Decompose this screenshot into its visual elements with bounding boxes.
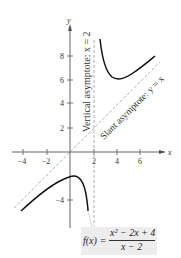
y-tick-label: 8: [60, 52, 64, 61]
x-tick-labels: −4 −2 2 4 6: [18, 157, 142, 166]
x-tick-label: −2: [42, 157, 51, 166]
x-tick-label: −4: [18, 157, 27, 166]
y-tick-label: 4: [60, 99, 64, 108]
formula-leader-line: [88, 212, 92, 227]
formula-numerator: x² − 2x + 4: [110, 227, 155, 238]
vertical-asymptote-label: Vertical asymptote: x = 2: [81, 31, 92, 132]
x-axis-label: x: [167, 148, 172, 157]
formula-lhs: f(x) =: [83, 235, 106, 246]
y-tick-label: −4: [55, 196, 64, 205]
formula-box: f(x) = x² − 2x + 4 x − 2: [81, 227, 157, 255]
y-tick-label: 2: [60, 124, 64, 133]
curve-right-branch: [100, 39, 155, 79]
y-axis-label: y: [66, 16, 71, 25]
x-tick-label: 6: [138, 157, 142, 166]
graph-canvas: y x −4 −2 2 4 6 8 6 4 2 −4 Vertica: [0, 0, 181, 258]
slant-asymptote-label: Slant asymptote: y = x: [98, 74, 166, 142]
formula-denominator: x − 2: [121, 241, 142, 252]
x-tick-label: 4: [115, 157, 119, 166]
x-axis-arrow-icon: [159, 150, 166, 154]
y-tick-label: 6: [60, 76, 64, 85]
y-axis-arrow-icon: [68, 24, 72, 31]
curve-left-branch: [21, 176, 88, 211]
